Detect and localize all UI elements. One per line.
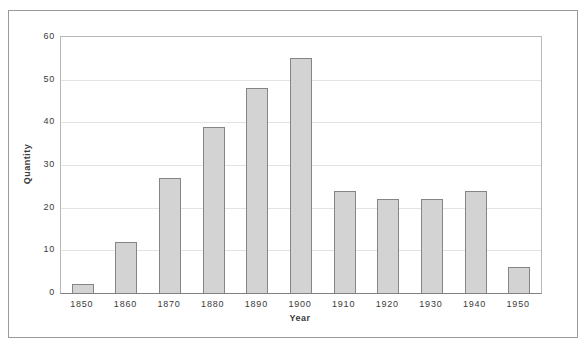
bar-1900 xyxy=(290,58,312,293)
x-tick-label-1860: 1860 xyxy=(103,298,147,310)
x-tick-label-1880: 1880 xyxy=(191,298,235,310)
x-tick-label-1890: 1890 xyxy=(234,298,278,310)
y-tick-label-50: 50 xyxy=(18,74,55,84)
bar-1870 xyxy=(159,178,181,293)
x-tick-label-1900: 1900 xyxy=(278,298,322,310)
x-tick-label-1850: 1850 xyxy=(60,298,104,310)
bar-1950 xyxy=(508,267,530,293)
x-tick-label-1910: 1910 xyxy=(322,298,366,310)
y-tick-label-20: 20 xyxy=(18,202,55,212)
x-tick-label-1940: 1940 xyxy=(453,298,497,310)
y-tick-label-60: 60 xyxy=(18,31,55,41)
y-tick-label-30: 30 xyxy=(18,159,55,169)
x-axis-title: Year xyxy=(60,313,540,323)
bar-1880 xyxy=(203,127,225,293)
bar-1850 xyxy=(72,284,94,293)
bar-1910 xyxy=(334,191,356,293)
bar-1890 xyxy=(246,88,268,293)
y-tick-label-40: 40 xyxy=(18,116,55,126)
x-tick-label-1920: 1920 xyxy=(365,298,409,310)
bar-1930 xyxy=(421,199,443,293)
x-tick-label-1930: 1930 xyxy=(409,298,453,310)
y-tick-label-10: 10 xyxy=(18,244,55,254)
bar-1860 xyxy=(115,242,137,293)
chart-canvas: Quantity Year 01020304050601850186018701… xyxy=(0,0,586,351)
x-tick-label-1870: 1870 xyxy=(147,298,191,310)
plot-area xyxy=(60,36,542,294)
bar-1920 xyxy=(377,199,399,293)
x-tick-label-1950: 1950 xyxy=(496,298,540,310)
bar-1940 xyxy=(465,191,487,293)
y-tick-label-0: 0 xyxy=(18,287,55,297)
